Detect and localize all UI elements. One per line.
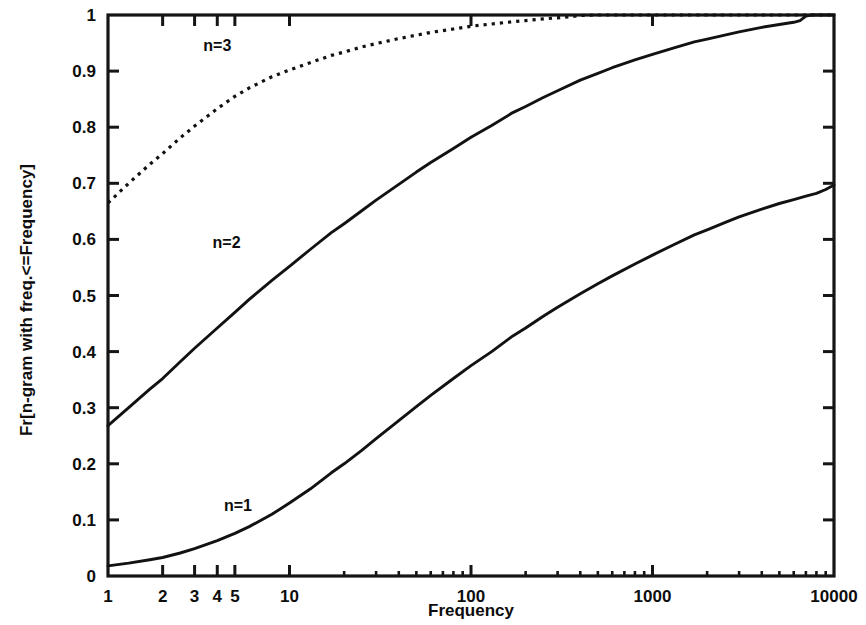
x-tick-label: 10000 bbox=[810, 587, 857, 606]
x-tick-label: 4 bbox=[213, 587, 223, 606]
x-tick-label: 10 bbox=[280, 587, 299, 606]
y-axis-title: Fr[n-gram with freq.<=Frequency] bbox=[17, 164, 36, 436]
x-tick-label: 1000 bbox=[634, 587, 672, 606]
y-tick-label: 0.3 bbox=[72, 399, 96, 418]
annotation-n2: n=2 bbox=[213, 234, 241, 251]
x-tick-label: 5 bbox=[230, 587, 239, 606]
x-tick-label: 2 bbox=[158, 587, 167, 606]
axis-tick-labels: 123451010010001000000.10.20.30.40.50.60.… bbox=[72, 6, 857, 606]
x-tick-label: 1 bbox=[103, 587, 112, 606]
annotation-n1: n=1 bbox=[224, 497, 252, 514]
y-tick-label: 0.7 bbox=[72, 174, 96, 193]
y-tick-label: 0.8 bbox=[72, 118, 96, 137]
y-tick-label: 0.2 bbox=[72, 455, 96, 474]
y-tick-label: 0.1 bbox=[72, 511, 96, 530]
data-curves bbox=[108, 15, 834, 566]
y-tick-label: 0.6 bbox=[72, 230, 96, 249]
axis-ticks bbox=[108, 15, 834, 576]
y-tick-label: 0.5 bbox=[72, 287, 96, 306]
x-tick-label: 100 bbox=[457, 587, 485, 606]
figure-container: Fr[n-gram with freq.<=Frequency] Frequen… bbox=[0, 0, 866, 625]
annotation-n3: n=3 bbox=[203, 37, 231, 54]
plot-frame bbox=[108, 15, 834, 576]
series-annotations: n=1n=2n=3 bbox=[203, 37, 252, 514]
y-tick-label: 0.9 bbox=[72, 62, 96, 81]
cumulative-frequency-chart: Fr[n-gram with freq.<=Frequency] Frequen… bbox=[0, 0, 866, 625]
x-tick-label: 3 bbox=[190, 587, 199, 606]
y-tick-label: 0.4 bbox=[72, 343, 96, 362]
y-tick-label: 0 bbox=[87, 567, 96, 586]
y-tick-label: 1 bbox=[87, 6, 96, 25]
